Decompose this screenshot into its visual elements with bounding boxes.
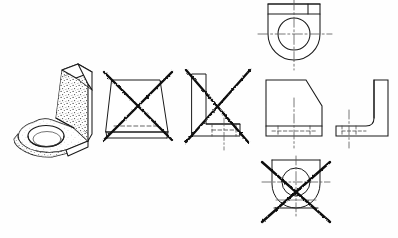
upright-side-thickness [88, 84, 92, 141]
drawing-sheet: Orthographic projection exercise — angle… [0, 0, 398, 238]
technical-drawing-canvas [0, 0, 398, 238]
